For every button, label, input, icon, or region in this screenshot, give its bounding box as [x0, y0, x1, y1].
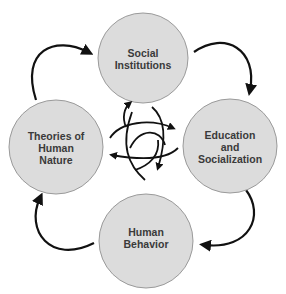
node-label-line: Education [205, 129, 256, 141]
cycle-diagram: Social Institutions Education and Social… [0, 0, 286, 294]
arrow-social-to-education [194, 43, 251, 90]
svg-text:Socialization: Socialization [198, 153, 262, 165]
node-label-line: Institutions [115, 59, 172, 71]
node-label-line: Theories of [28, 130, 85, 142]
node-label-line: Human [128, 226, 164, 238]
node-label-line: Nature [39, 154, 72, 166]
svg-text:Social: Social [128, 47, 159, 59]
svg-text:Human: Human [128, 226, 164, 238]
arrow-education-to-behavior [205, 190, 254, 245]
node-social-institutions: Social Institutions [98, 13, 188, 103]
node-label-line: Socialization [198, 153, 262, 165]
node-theories-human-nature: Theories of Human Nature [9, 100, 103, 194]
svg-text:Institutions: Institutions [115, 59, 172, 71]
svg-text:Human: Human [38, 142, 74, 154]
center-cycle-arrows-icon [110, 103, 178, 180]
arrow-behavior-to-theories [36, 198, 94, 250]
svg-text:Nature: Nature [39, 154, 72, 166]
node-human-behavior: Human Behavior [99, 194, 193, 288]
svg-text:Education: Education [205, 129, 256, 141]
svg-text:and: and [221, 141, 240, 153]
node-label-line: Social [128, 47, 159, 59]
node-label-line: Behavior [124, 238, 169, 250]
node-education-socialization: Education and Socialization [183, 99, 277, 193]
node-label-line: Human [38, 142, 74, 154]
svg-text:Behavior: Behavior [124, 238, 169, 250]
arrow-theories-to-social [32, 45, 88, 100]
node-label-line: and [221, 141, 240, 153]
svg-text:Theories of: Theories of [28, 130, 85, 142]
